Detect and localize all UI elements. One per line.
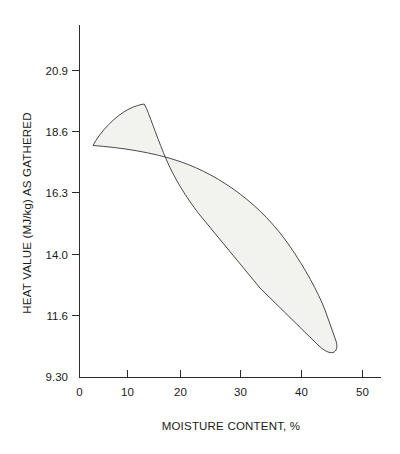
y-tick-label-16-3: 16.3 xyxy=(46,187,68,199)
x-tick-label-40: 40 xyxy=(295,386,308,398)
y-axis-title: HEAT VALUE (MJ/kg) AS GATHERED xyxy=(21,112,33,313)
heat-value-moisture-chart: 20.9 18.6 16.3 14.0 11.6 9.30 0 10 20 30… xyxy=(0,0,400,454)
y-tick-label-14-0: 14.0 xyxy=(46,249,68,261)
x-tick-label-10: 10 xyxy=(121,386,134,398)
y-tick-label-11-6: 11.6 xyxy=(46,310,68,322)
x-tick-label-0: 0 xyxy=(76,386,82,398)
y-tick-label-18-6: 18.6 xyxy=(46,126,68,138)
x-tick-label-30: 30 xyxy=(234,386,247,398)
chart-figure: 20.9 18.6 16.3 14.0 11.6 9.30 0 10 20 30… xyxy=(0,0,400,454)
y-tick-label-20-9: 20.9 xyxy=(46,65,68,77)
x-tick-label-50: 50 xyxy=(356,386,369,398)
y-tick-label-9-30: 9.30 xyxy=(46,371,68,383)
x-axis-title: MOISTURE CONTENT, % xyxy=(162,420,301,432)
x-tick-label-20: 20 xyxy=(174,386,187,398)
data-band-envelope xyxy=(93,104,337,353)
